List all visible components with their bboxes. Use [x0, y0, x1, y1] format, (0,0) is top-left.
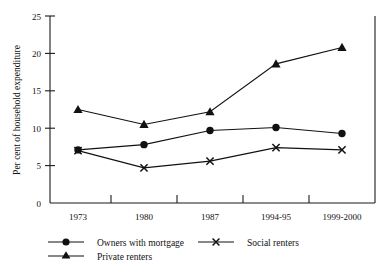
- data-point-filled-circle: [140, 141, 147, 148]
- x-tick-label-1994-95: 1994-95: [261, 212, 291, 222]
- y-tick-label-15: 15: [32, 86, 42, 96]
- data-point-filled-circle: [206, 127, 213, 134]
- data-point-filled-circle: [272, 124, 279, 131]
- data-point-filled-triangle: [337, 43, 346, 51]
- series-line-social-renters: [78, 148, 342, 168]
- data-point-filled-triangle: [205, 107, 214, 115]
- chart-legend: Owners with mortgage Social renters Priv…: [48, 238, 299, 262]
- legend-item-owners-with-mortgage[interactable]: Owners with mortgage: [48, 238, 184, 248]
- y-tick-label-20: 20: [32, 49, 42, 59]
- data-point-filled-triangle: [73, 105, 82, 113]
- x-tick-label-1973: 1973: [69, 212, 88, 222]
- series-social-renters: [74, 144, 345, 171]
- x-tick-label-1980: 1980: [135, 212, 154, 222]
- y-tick-label-25: 25: [32, 12, 42, 22]
- y-tick-label-5: 5: [37, 161, 42, 171]
- line-chart: Per cent of household expenditure 25 20 …: [0, 0, 383, 272]
- filled-triangle-icon: [62, 251, 71, 258]
- y-tick-label-0: 0: [37, 199, 42, 209]
- series-layer: [73, 43, 346, 172]
- x-tick-group: [111, 195, 309, 203]
- data-point-filled-circle: [338, 130, 345, 137]
- legend-label-owners: Owners with mortgage: [97, 238, 184, 248]
- y-axis-title: Per cent of household expenditure: [12, 45, 22, 175]
- series-private-renters: [73, 43, 346, 128]
- legend-item-private-renters[interactable]: Private renters: [48, 251, 152, 261]
- x-tick-label-1987: 1987: [201, 212, 220, 222]
- legend-label-social: Social renters: [247, 238, 299, 248]
- legend-item-social-renters[interactable]: Social renters: [198, 238, 299, 248]
- legend-label-private: Private renters: [97, 252, 152, 262]
- x-tick-label-1999-2000: 1999-2000: [323, 212, 362, 222]
- chart-canvas: Per cent of household expenditure 25 20 …: [0, 0, 383, 272]
- y-tick-label-10: 10: [32, 124, 42, 134]
- filled-circle-icon: [62, 238, 69, 245]
